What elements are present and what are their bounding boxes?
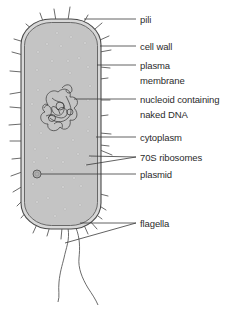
label-plasmid: plasmid: [140, 168, 172, 181]
label-ribosomes: 70S ribosomes: [140, 151, 202, 164]
label-flagella-text: flagella: [140, 218, 169, 229]
label-nucleoid-line2: naked DNA: [140, 108, 219, 121]
label-pili-text: pili: [140, 14, 151, 25]
label-cell-wall: cell wall: [140, 40, 172, 53]
label-plasma-membrane-line1: plasma: [140, 59, 185, 72]
label-cytoplasm: cytoplasm: [140, 131, 182, 144]
label-pili: pili: [140, 13, 151, 26]
label-ribosomes-text: 70S ribosomes: [140, 152, 202, 163]
label-nucleoid: nucleoid containing naked DNA: [140, 93, 219, 121]
label-cell-wall-text: cell wall: [140, 41, 172, 52]
label-plasma-membrane: plasma membrane: [140, 59, 185, 87]
label-plasma-membrane-line2: membrane: [140, 74, 185, 87]
label-flagella: flagella: [140, 217, 169, 230]
label-plasmid-text: plasmid: [140, 169, 172, 180]
label-cytoplasm-text: cytoplasm: [140, 132, 182, 143]
plasmid: [33, 170, 41, 178]
label-nucleoid-line1: nucleoid containing: [140, 93, 219, 106]
cytoplasm: [25, 23, 98, 226]
